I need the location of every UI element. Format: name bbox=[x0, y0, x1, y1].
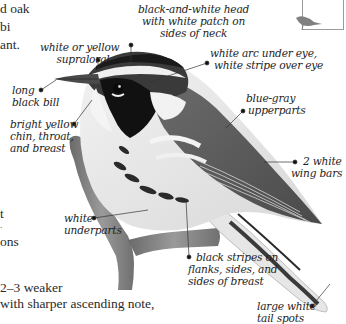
label-line: black stripes on bbox=[196, 251, 278, 263]
label-tail: large white tail spots bbox=[257, 300, 316, 324]
label-line: white bbox=[64, 212, 122, 224]
label-line: long bbox=[12, 84, 59, 96]
label-line: black-and-white head bbox=[138, 3, 249, 15]
label-line: underparts bbox=[64, 224, 122, 236]
label-upperparts: blue-gray upperparts bbox=[240, 92, 306, 116]
label-line: white arc under eye, bbox=[210, 47, 323, 59]
label-line: 2 white bbox=[303, 155, 342, 167]
label-throat: bright yellow chin, throat, and breast bbox=[10, 118, 78, 154]
label-line: wing bars bbox=[291, 167, 342, 179]
label-line: chin, throat, bbox=[10, 130, 78, 142]
label-line: flanks, sides, and bbox=[188, 263, 278, 275]
label-wingbars: 2 white wing bars bbox=[299, 155, 342, 179]
label-supraloral: white or yellow supraloral bbox=[40, 41, 119, 65]
label-line: supraloral bbox=[40, 53, 109, 65]
label-line: blue-gray bbox=[246, 92, 306, 104]
label-line: large white bbox=[257, 300, 316, 312]
label-line: bright yellow bbox=[10, 118, 78, 130]
bird-silhouette-icon bbox=[296, 16, 322, 30]
label-line: tail spots bbox=[257, 312, 316, 324]
label-line: sides of breast bbox=[188, 275, 278, 287]
label-line: white or yellow bbox=[40, 41, 119, 53]
label-line: white stripe over eye bbox=[214, 59, 323, 71]
label-line: sides of neck bbox=[138, 27, 249, 39]
label-line: with white patch on bbox=[138, 15, 249, 27]
label-line: black bill bbox=[12, 96, 59, 108]
label-eye: white arc under eye, white stripe over e… bbox=[210, 47, 323, 71]
label-stripes: black stripes on flanks, sides, and side… bbox=[188, 251, 278, 287]
label-underparts: white underparts bbox=[64, 212, 122, 236]
label-line: upperparts bbox=[248, 104, 306, 116]
label-head: black-and-white head with white patch on… bbox=[138, 3, 249, 39]
label-bill: long black bill bbox=[12, 84, 59, 108]
label-line: and breast bbox=[10, 142, 78, 154]
